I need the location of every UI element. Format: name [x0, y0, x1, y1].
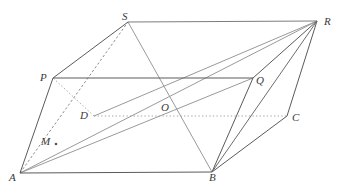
- edge-S-R: [128, 21, 317, 22]
- edge-B-C: [212, 116, 287, 172]
- vertex-label-Q: Q: [256, 75, 264, 86]
- diagonal-A-R: [20, 21, 317, 173]
- point-marker-M: [55, 143, 58, 146]
- figure-canvas: [0, 0, 349, 193]
- edge-Q-R: [253, 21, 317, 78]
- vertex-label-C: C: [292, 112, 299, 123]
- vertex-label-R: R: [324, 16, 331, 27]
- diagonal-S-B: [128, 22, 212, 172]
- vertex-label-M: M: [41, 136, 50, 147]
- edge-C-R: [287, 21, 317, 116]
- vertex-label-P: P: [40, 72, 47, 83]
- vertex-label-S: S: [122, 11, 128, 22]
- vertex-label-D: D: [80, 110, 88, 121]
- vertex-label-B: B: [209, 172, 216, 183]
- vertex-label-O: O: [161, 102, 169, 113]
- geometry-figure: S R P Q D O C M A B: [0, 0, 349, 193]
- vertex-label-A: A: [9, 172, 16, 183]
- edge-A-B: [20, 172, 212, 173]
- diagonal-A-S-through-M-D: [20, 22, 128, 173]
- edge-P-S: [53, 22, 128, 78]
